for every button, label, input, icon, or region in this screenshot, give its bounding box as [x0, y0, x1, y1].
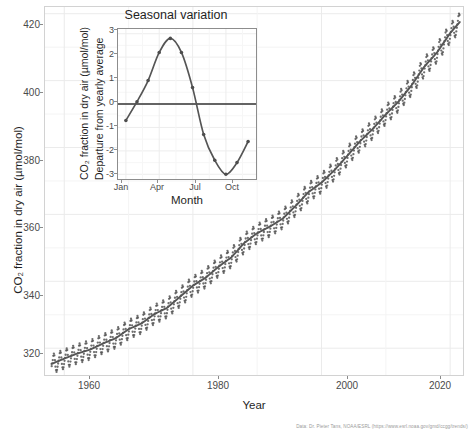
main-y-tickmark-340 [40, 295, 43, 296]
inset-x-tick-oct: Oct [217, 182, 247, 192]
main-y-tickmark-400 [40, 92, 43, 93]
inset-x-tick-apr: Apr [142, 182, 172, 192]
inset-x-axis-label: Month [117, 194, 257, 206]
main-x-tick-2000: 2000 [317, 380, 377, 391]
main-x-tick-1960: 1960 [59, 380, 119, 391]
inset-x-tickmark-jan [121, 180, 122, 183]
inset-y-axis-label-line1: CO₂ fraction in dry air (µmol/mol) [78, 27, 90, 180]
inset-y-tick-neg2: -2 [100, 145, 114, 155]
main-y-tickmark-320 [40, 353, 43, 354]
inset-seasonal-variation: Seasonal variation CO₂ fraction in dry a… [66, 4, 264, 204]
inset-seasonal-curve [126, 38, 248, 174]
main-y-tick-320: 320 [6, 348, 40, 359]
main-x-tickmark-1960 [89, 376, 90, 379]
inset-x-tickmark-apr [157, 180, 158, 183]
inset-x-tickmark-oct [232, 180, 233, 183]
inset-y-tick-neg3: -3 [100, 169, 114, 179]
main-y-tick-420: 420 [6, 19, 40, 30]
inset-x-tick-jul: Jul [180, 182, 210, 192]
main-x-tickmark-2000 [347, 376, 348, 379]
inset-plot-panel [117, 28, 257, 180]
main-x-tickmark-2020 [440, 376, 441, 379]
keeling-curve-figure: 420 400 380 360 340 320 CO₂ fraction in … [0, 0, 472, 431]
data-source-caption: Data: Dr. Pieter Tans, NOAA/ESRL (https:… [296, 424, 468, 429]
main-y-tickmark-380 [40, 160, 43, 161]
main-y-tickmark-420 [40, 24, 43, 25]
main-x-tickmark-1980 [218, 376, 219, 379]
main-x-tick-1980: 1980 [188, 380, 248, 391]
inset-x-tick-jan: Jan [106, 182, 136, 192]
main-y-tickmark-360 [40, 227, 43, 228]
inset-plot-svg [118, 29, 256, 179]
inset-y-tick-1: 1 [100, 73, 114, 83]
inset-title: Seasonal variation [88, 8, 264, 22]
inset-y-tick-3: 3 [100, 25, 114, 35]
inset-x-tickmark-jul [195, 180, 196, 183]
inset-y-tick-0: 0 [100, 97, 114, 107]
main-x-axis-label: Year [44, 399, 464, 411]
main-x-tick-2020: 2020 [410, 380, 470, 391]
inset-y-tick-neg1: -1 [100, 121, 114, 131]
main-y-axis-label: CO₂ fraction in dry air (µmol/mol) [0, 0, 10, 120]
inset-y-tick-2: 2 [100, 49, 114, 59]
main-y-tick-400: 400 [6, 87, 40, 98]
main-y-axis-label-text: CO₂ fraction in dry air (µmol/mol) [12, 120, 24, 300]
